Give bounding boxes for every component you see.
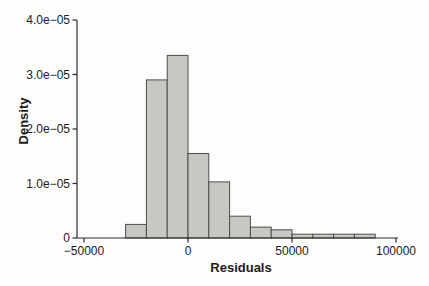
y-tick-label: 4.0e−05: [26, 13, 70, 27]
histogram-bar: [188, 154, 209, 239]
y-tick-label: 2.0e−05: [26, 122, 70, 136]
y-tick-label: 0: [63, 231, 70, 245]
x-tick-label: 50000: [275, 244, 309, 258]
x-tick-label: 0: [185, 244, 192, 258]
histogram-bar: [230, 216, 251, 238]
histogram-bar: [146, 80, 167, 238]
histogram-bar: [209, 182, 230, 238]
histogram-bar: [126, 224, 147, 238]
y-tick-label: 1.0e−05: [26, 177, 70, 191]
plot-area: 01.0e−052.0e−053.0e−054.0e−05−5000005000…: [0, 0, 429, 286]
x-axis-title: Residuals: [210, 260, 271, 275]
x-tick-label: −50000: [64, 244, 105, 258]
histogram-figure: Density Residuals 01.0e−052.0e−053.0e−05…: [0, 0, 429, 286]
histogram-bar: [167, 55, 188, 238]
histogram-bar: [271, 230, 292, 238]
y-axis-title: Density: [16, 98, 31, 145]
y-tick-label: 3.0e−05: [26, 68, 70, 82]
histogram-bar: [250, 227, 271, 238]
x-tick-label: 100000: [376, 244, 416, 258]
